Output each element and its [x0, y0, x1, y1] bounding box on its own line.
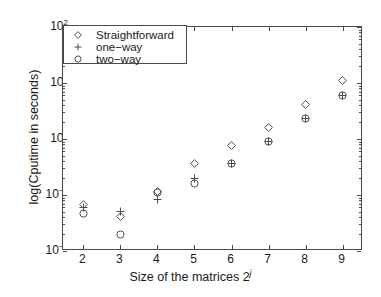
- x-tick-5: [194, 245, 195, 249]
- y-tick-minor: [63, 112, 65, 113]
- y-tick-minor: [359, 207, 361, 208]
- x-tick-label-6: 6: [219, 252, 243, 266]
- x-axis-title: Size of the matrices 2j: [0, 270, 381, 284]
- y-tick-minor: [359, 49, 361, 50]
- marker-diamond-x5: [190, 159, 199, 168]
- x-tick-6: [232, 27, 233, 31]
- y-tick-minor: [359, 95, 361, 96]
- x-tick-label-4: 4: [144, 252, 168, 266]
- y-tick-minor: [63, 161, 65, 162]
- y-tick-minor: [63, 95, 65, 96]
- x-axis-title-text: Size of the matrices 2: [129, 270, 249, 284]
- y-tick-major-1e0: [357, 139, 361, 140]
- y-tick-minor: [63, 92, 65, 93]
- chart-legend: Straightforwardone−waytwo−way: [63, 25, 187, 64]
- y-tick-minor: [359, 144, 361, 145]
- y-axis-title: log(Cputime in seconds): [27, 27, 41, 247]
- y-tick-minor: [63, 200, 65, 201]
- legend-label-2: two−way: [96, 52, 141, 66]
- y-tick-major-1e-2: [357, 251, 361, 252]
- y-tick-minor: [359, 217, 361, 218]
- x-tick-label-9: 9: [330, 252, 354, 266]
- marker-circle-x5: [190, 179, 199, 188]
- y-tick-minor: [359, 198, 361, 199]
- y-tick-minor: [63, 122, 65, 123]
- y-tick-major-1e1: [357, 83, 361, 84]
- y-tick-minor: [359, 66, 361, 67]
- y-tick-minor: [63, 105, 65, 106]
- y-tick-minor: [359, 200, 361, 201]
- x-tick-7: [269, 245, 270, 249]
- x-tick-label-5: 5: [181, 252, 205, 266]
- marker-circle-x4: [153, 188, 162, 197]
- y-tick-minor: [63, 198, 65, 199]
- y-tick-major-1e0: [63, 139, 67, 140]
- y-tick-minor: [359, 161, 361, 162]
- x-tick-label-3: 3: [107, 252, 131, 266]
- x-tick-label-2: 2: [70, 252, 94, 266]
- y-tick-minor: [359, 212, 361, 213]
- y-tick-minor: [63, 142, 65, 143]
- marker-plus-x3: [116, 207, 125, 216]
- y-tick-minor: [359, 39, 361, 40]
- y-tick-minor: [63, 168, 65, 169]
- y-tick-major-1e2: [357, 27, 361, 28]
- x-tick-8: [306, 245, 307, 249]
- marker-circle-x9: [338, 91, 347, 100]
- y-tick-minor: [63, 66, 65, 67]
- y-tick-minor: [63, 148, 65, 149]
- y-tick-major-1e-2: [63, 251, 67, 252]
- y-tick-minor: [359, 168, 361, 169]
- y-tick-minor: [63, 151, 65, 152]
- y-tick-minor: [359, 105, 361, 106]
- y-tick-minor: [63, 86, 65, 87]
- y-tick-major-1e-1: [63, 195, 67, 196]
- y-tick-minor: [359, 88, 361, 89]
- y-tick-minor: [63, 144, 65, 145]
- marker-circle-x6: [227, 159, 236, 168]
- y-tick-minor: [359, 148, 361, 149]
- y-tick-minor: [63, 204, 65, 205]
- marker-diamond-x7: [264, 123, 273, 132]
- y-tick-minor: [359, 156, 361, 157]
- y-tick-minor: [359, 122, 361, 123]
- x-tick-8: [306, 27, 307, 31]
- y-tick-minor: [359, 32, 361, 33]
- y-tick-minor: [359, 30, 361, 31]
- y-tick-minor: [359, 224, 361, 225]
- y-tick-major-1e-1: [357, 195, 361, 196]
- x-tick-9: [343, 245, 344, 249]
- x-tick-3: [120, 245, 121, 249]
- y-tick-minor: [359, 86, 361, 87]
- y-tick-minor: [359, 44, 361, 45]
- x-tick-label-8: 8: [293, 252, 317, 266]
- y-tick-minor: [63, 88, 65, 89]
- y-tick-major-1e1: [63, 83, 67, 84]
- marker-circle-x8: [301, 114, 310, 123]
- y-tick-minor: [359, 36, 361, 37]
- marker-diamond-x6: [227, 141, 236, 150]
- x-tick-2: [83, 245, 84, 249]
- legend-marker-circle-icon: [74, 55, 88, 68]
- y-tick-minor: [63, 217, 65, 218]
- x-tick-5: [194, 27, 195, 31]
- y-tick-minor: [63, 212, 65, 213]
- y-tick-minor: [359, 112, 361, 113]
- x-tick-9: [343, 27, 344, 31]
- marker-circle-x7: [264, 137, 273, 146]
- marker-diamond-x8: [301, 100, 310, 109]
- y-tick-minor: [63, 156, 65, 157]
- y-tick-mantissa: 10: [46, 187, 59, 201]
- y-tick-minor: [63, 207, 65, 208]
- y-tick-minor: [63, 178, 65, 179]
- y-tick-minor: [359, 100, 361, 101]
- y-tick-minor: [359, 178, 361, 179]
- legend-entry-2: two−way: [64, 53, 186, 66]
- y-tick-minor: [63, 234, 65, 235]
- y-tick-minor: [359, 234, 361, 235]
- x-tick-label-7: 7: [256, 252, 280, 266]
- x-tick-6: [232, 245, 233, 249]
- x-tick-4: [157, 245, 158, 249]
- y-tick-minor: [63, 100, 65, 101]
- y-tick-minor: [359, 92, 361, 93]
